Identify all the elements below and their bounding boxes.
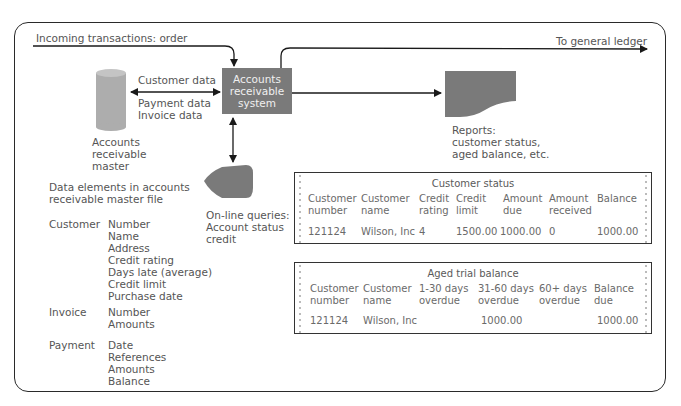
column-header: Customername xyxy=(361,193,410,216)
payment-data-label: Payment data xyxy=(138,97,211,109)
cell-customer-name: Wilson, Inc xyxy=(363,315,417,326)
master-label-line: receivable xyxy=(92,148,146,160)
master-file-cylinder-icon xyxy=(96,69,126,131)
reports-label: Reports: customer status, aged balance, … xyxy=(452,124,549,160)
online-queries-label: On-line queries: Account status credit xyxy=(206,209,289,245)
heading-line: Data elements in accounts xyxy=(49,181,190,193)
column-header: Amountdue xyxy=(503,193,542,216)
cell-customer-number: 121124 xyxy=(308,226,346,237)
column-header: Customernumber xyxy=(308,193,357,216)
column-header: Customernumber xyxy=(310,283,359,306)
cell-balance: 1000.00 xyxy=(597,226,638,237)
system-label-line: receivable xyxy=(222,85,292,97)
queries-label-line: Account status xyxy=(206,221,289,233)
column-header: 60+ daysoverdue xyxy=(539,283,587,306)
cell-customer-number: 121124 xyxy=(310,315,348,326)
reports-label-line: customer status, xyxy=(452,136,549,148)
customer-status-report: Customer status Customernumber Customern… xyxy=(294,172,652,244)
column-header: 1-30 daysoverdue xyxy=(419,283,468,306)
incoming-transactions-label: Incoming transactions: order xyxy=(36,32,187,44)
field: Credit limit xyxy=(108,278,212,290)
queries-label-line: On-line queries: xyxy=(206,209,289,221)
field: Address xyxy=(108,242,212,254)
invoice-data-label: Invoice data xyxy=(138,109,203,121)
column-header: Creditlimit xyxy=(456,193,486,216)
column-header: Creditrating xyxy=(419,193,449,216)
queries-label-line: credit xyxy=(206,233,289,245)
cell-credit-rating: 4 xyxy=(419,226,425,237)
column-header: Customername xyxy=(363,283,412,306)
cell-31-60-overdue: 1000.00 xyxy=(481,315,522,326)
accounts-receivable-system-box: Accounts receivable system xyxy=(222,68,292,114)
heading-line: receivable master file xyxy=(49,193,190,205)
group-payment-name: Payment xyxy=(49,339,95,351)
customer-data-label: Customer data xyxy=(138,74,216,86)
reports-label-line: aged balance, etc. xyxy=(452,148,549,160)
master-label-line: Accounts xyxy=(92,136,146,148)
group-customer-fields: Number Name Address Credit rating Days l… xyxy=(108,218,212,302)
display-terminal-icon xyxy=(204,165,253,198)
field: Amounts xyxy=(108,318,155,330)
aged-trial-balance-report: Aged trial balance Customernumber Custom… xyxy=(294,262,652,334)
field: References xyxy=(108,351,166,363)
cell-credit-limit: 1500.00 xyxy=(456,226,497,237)
general-ledger-label: To general ledger xyxy=(556,35,647,47)
system-label-line: Accounts xyxy=(222,73,292,85)
field: Amounts xyxy=(108,363,166,375)
field: Name xyxy=(108,230,212,242)
group-customer-name: Customer xyxy=(49,218,100,230)
report-title: Customer status xyxy=(295,178,651,189)
master-file-label: Accounts receivable master xyxy=(92,136,146,172)
column-header: Balancedue xyxy=(594,283,634,306)
group-invoice-fields: Number Amounts xyxy=(108,306,155,330)
field: Date xyxy=(108,339,166,351)
cell-balance-due: 1000.00 xyxy=(597,315,638,326)
cell-amount-received: 0 xyxy=(549,226,555,237)
field: Purchase date xyxy=(108,290,212,302)
data-elements-heading: Data elements in accounts receivable mas… xyxy=(49,181,190,205)
group-invoice-name: Invoice xyxy=(49,306,87,318)
report-document-icon xyxy=(445,71,516,117)
column-header: 31-60 daysoverdue xyxy=(478,283,534,306)
field: Credit rating xyxy=(108,254,212,266)
cell-customer-name: Wilson, Inc xyxy=(361,226,415,237)
field: Days late (average) xyxy=(108,266,212,278)
field: Number xyxy=(108,306,155,318)
master-label-line: master xyxy=(92,160,146,172)
report-title: Aged trial balance xyxy=(295,268,651,279)
field: Number xyxy=(108,218,212,230)
column-header: Balance xyxy=(597,193,637,205)
column-header: Amountreceived xyxy=(549,193,592,216)
system-label-line: system xyxy=(222,97,292,109)
field: Balance xyxy=(108,375,166,387)
group-payment-fields: Date References Amounts Balance xyxy=(108,339,166,387)
cell-amount-due: 1000.00 xyxy=(500,226,541,237)
reports-label-line: Reports: xyxy=(452,124,549,136)
